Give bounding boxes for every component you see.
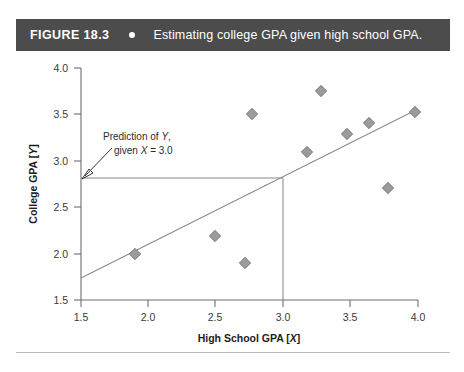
annotation-line-2-pre: given bbox=[114, 145, 141, 156]
data-point-marker bbox=[129, 248, 140, 259]
x-axis-ticks bbox=[81, 300, 418, 307]
data-point-marker bbox=[382, 182, 393, 193]
y-axis-title-pre: College GPA [ bbox=[27, 154, 39, 223]
y-tick-label-2-0: 2.0 bbox=[53, 248, 68, 260]
y-axis-title-post: ] bbox=[27, 144, 39, 148]
data-point-marker bbox=[409, 106, 420, 117]
y-tick-label-4-0: 4.0 bbox=[53, 62, 68, 74]
y-tick-label-3-5: 3.5 bbox=[53, 108, 68, 120]
x-tick-label-3-5: 3.5 bbox=[343, 311, 358, 323]
x-tick-label-2-0: 2.0 bbox=[141, 311, 156, 323]
data-point-marker bbox=[239, 257, 250, 268]
annotation-line-1: Prediction of Y, bbox=[103, 131, 171, 142]
data-point-marker bbox=[363, 117, 374, 128]
annotation-arrow-line bbox=[85, 148, 112, 176]
x-tick-label-4-0: 4.0 bbox=[411, 311, 426, 323]
x-axis-title-pre: High School GPA [ bbox=[198, 332, 291, 344]
plot-svg: 4.0 3.5 3.0 2.5 2.0 1.5 1.5 2.0 2.5 bbox=[0, 0, 464, 372]
data-point-marker bbox=[341, 128, 352, 139]
x-tick-label-3-0: 3.0 bbox=[276, 311, 291, 323]
data-points bbox=[129, 85, 420, 268]
prediction-annotation: Prediction of Y, given X = 3.0 bbox=[82, 131, 173, 179]
data-point-marker bbox=[315, 85, 326, 96]
figure-bottom-rule bbox=[16, 352, 450, 353]
data-point-marker bbox=[301, 146, 312, 157]
y-axis-ticks bbox=[74, 68, 81, 300]
annotation-line-2-post: = 3.0 bbox=[147, 145, 173, 156]
annotation-line-1-post: , bbox=[168, 131, 171, 142]
x-axis-tick-labels: 1.5 2.0 2.5 3.0 3.5 4.0 bbox=[74, 311, 426, 323]
x-tick-label-1-5: 1.5 bbox=[74, 311, 89, 323]
data-point-marker bbox=[246, 108, 257, 119]
figure-container: FIGURE 18.3 Estimating college GPA given… bbox=[0, 0, 464, 372]
y-tick-label-1-5: 1.5 bbox=[53, 294, 68, 306]
annotation-line-2: given X = 3.0 bbox=[114, 145, 173, 156]
x-axis-title-post: ] bbox=[297, 332, 301, 344]
y-tick-label-2-5: 2.5 bbox=[53, 201, 68, 213]
x-axis-title: High School GPA [X] bbox=[198, 332, 301, 344]
y-axis-tick-labels: 4.0 3.5 3.0 2.5 2.0 1.5 bbox=[53, 62, 68, 306]
y-axis-title: College GPA [Y] bbox=[27, 144, 39, 223]
data-point-marker bbox=[209, 230, 220, 241]
annotation-line-1-pre: Prediction of bbox=[103, 131, 161, 142]
y-tick-label-3-0: 3.0 bbox=[53, 155, 68, 167]
x-tick-label-2-5: 2.5 bbox=[208, 311, 223, 323]
scatter-plot: 4.0 3.5 3.0 2.5 2.0 1.5 1.5 2.0 2.5 bbox=[0, 0, 464, 372]
